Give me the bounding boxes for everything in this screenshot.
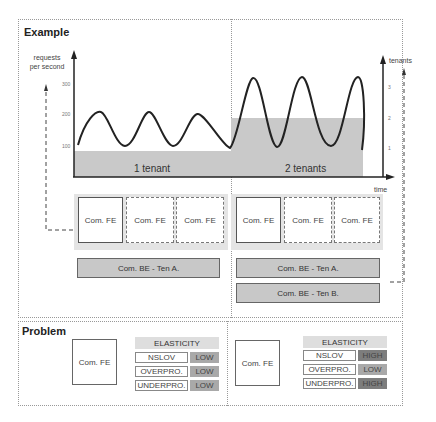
problem-divider xyxy=(227,321,228,406)
level-overpro-left: LOW xyxy=(190,366,219,377)
metric-nslov-left: NSLOV xyxy=(135,352,188,363)
phase-label-2: 2 tenants xyxy=(285,163,326,174)
fe-box-scaled: Com. FE xyxy=(126,197,174,243)
y-axis-right-label: tenants xyxy=(389,56,412,65)
metric-underpro-left: UNDERPRO. xyxy=(135,380,188,391)
phase-label-1: 1 tenant xyxy=(134,163,170,174)
be-box-ten-a: Com. BE - Ten A. xyxy=(77,258,220,278)
y-tick-300: 300 xyxy=(62,81,70,87)
be-box-ten-b: Com. BE - Ten B. xyxy=(236,283,380,303)
problem-fe-left: Com. FE xyxy=(72,339,117,385)
elasticity-header-right: ELASTICITY xyxy=(303,336,387,348)
tenant-tick-3: 3 xyxy=(388,84,391,90)
metric-overpro-left: OVERPRO. xyxy=(135,366,188,377)
metric-underpro-right: UNDERPRO. xyxy=(303,378,356,389)
y-tick-200: 200 xyxy=(62,111,70,117)
x-axis-label: time xyxy=(374,185,387,194)
level-nslov-right: HIGH xyxy=(358,350,387,361)
fe-box-scaled: Com. FE xyxy=(284,197,332,243)
y-axis-left-label: requests per second xyxy=(28,53,66,71)
metric-nslov-right: NSLOV xyxy=(303,350,356,361)
problem-fe-right: Com. FE xyxy=(235,340,280,386)
y-tick-100: 100 xyxy=(62,143,70,149)
fe-box-scaled: Com. FE xyxy=(176,197,224,243)
elasticity-header-left: ELASTICITY xyxy=(135,337,219,349)
level-underpro-left: LOW xyxy=(190,380,219,391)
be-box-ten-a: Com. BE - Ten A. xyxy=(236,258,380,278)
level-overpro-right: LOW xyxy=(358,364,387,375)
tenant-tick-1: 1 xyxy=(388,145,391,151)
level-nslov-left: LOW xyxy=(190,352,219,363)
fe-box: Com. FE xyxy=(78,197,123,243)
fe-box-scaled: Com. FE xyxy=(334,197,380,243)
metric-overpro-right: OVERPRO. xyxy=(303,364,356,375)
tenant-tick-2: 2 xyxy=(388,115,391,121)
problem-title: Problem xyxy=(22,325,66,337)
fe-box: Com. FE xyxy=(236,197,281,243)
level-underpro-right: HIGH xyxy=(358,378,387,389)
